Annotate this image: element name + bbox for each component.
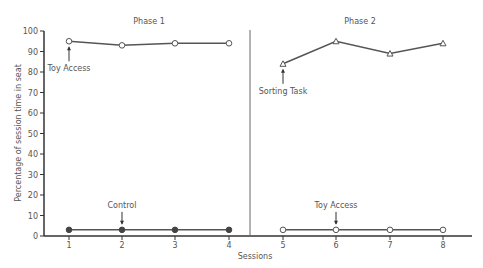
x-tick-label: 6: [333, 241, 338, 250]
open-circle-marker: [333, 227, 339, 233]
filled-circle-marker: [119, 227, 125, 233]
y-tick-label: 0: [33, 232, 38, 241]
filled-circle-marker: [226, 227, 232, 233]
annotations: Toy AccessControlSorting TaskToy Access: [46, 46, 357, 225]
y-tick-label: 20: [28, 191, 38, 200]
open-circle-marker: [226, 41, 232, 47]
y-ticks: 0102030405060708090100: [23, 27, 44, 241]
x-tick-label: 5: [280, 241, 285, 250]
y-tick-label: 90: [28, 48, 38, 57]
x-tick-label: 7: [387, 241, 392, 250]
phase-2-label: Phase 2: [344, 17, 376, 26]
y-tick-label: 80: [28, 68, 38, 77]
y-tick-label: 60: [28, 109, 38, 118]
arrow-head-icon: [281, 69, 285, 73]
x-tick-label: 1: [66, 241, 71, 250]
chart-container: 0102030405060708090100 12345678 Toy Acce…: [0, 0, 483, 268]
x-axis-label: Sessions: [238, 252, 273, 261]
filled-circle-marker: [172, 227, 178, 233]
x-ticks: 12345678: [66, 236, 445, 250]
x-tick-label: 4: [226, 241, 231, 250]
annotation-label: Toy Access: [313, 201, 357, 210]
annotation-label: Sorting Task: [259, 87, 308, 96]
y-tick-label: 50: [28, 130, 38, 139]
series-line: [69, 41, 229, 45]
open-circle-marker: [66, 38, 72, 44]
phase-1-label: Phase 1: [133, 17, 165, 26]
filled-circle-marker: [66, 227, 72, 233]
arrow-head-icon: [120, 221, 124, 225]
annotation-label: Control: [108, 201, 137, 210]
y-tick-label: 40: [28, 150, 38, 159]
annotation-label: Toy Access: [46, 64, 90, 73]
x-tick-label: 2: [119, 241, 124, 250]
y-tick-label: 100: [23, 27, 38, 36]
y-tick-label: 10: [28, 212, 38, 221]
arrow-head-icon: [334, 221, 338, 225]
y-axis-label: Percentage of session time in seat: [14, 64, 23, 202]
open-circle-marker: [280, 227, 286, 233]
x-tick-label: 3: [172, 241, 177, 250]
open-circle-marker: [387, 227, 393, 233]
arrow-head-icon: [67, 46, 71, 50]
open-circle-marker: [172, 41, 178, 47]
open-circle-marker: [119, 43, 125, 49]
y-tick-label: 70: [28, 89, 38, 98]
series-line: [283, 41, 443, 64]
open-circle-marker: [440, 227, 446, 233]
y-tick-label: 30: [28, 171, 38, 180]
x-tick-label: 8: [440, 241, 445, 250]
